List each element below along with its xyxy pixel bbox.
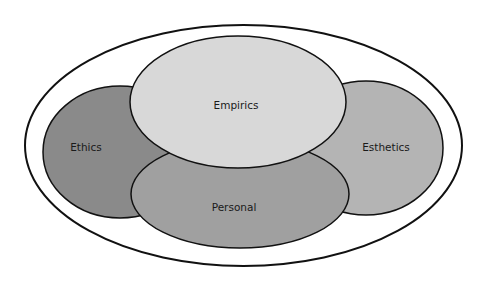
patterns-of-knowing-diagram: Ethics Esthetics Personal Empirics: [0, 0, 488, 282]
ethics-label: Ethics: [70, 141, 102, 153]
personal-label: Personal: [212, 201, 257, 213]
esthetics-label: Esthetics: [362, 141, 410, 153]
empirics-label: Empirics: [214, 99, 259, 111]
